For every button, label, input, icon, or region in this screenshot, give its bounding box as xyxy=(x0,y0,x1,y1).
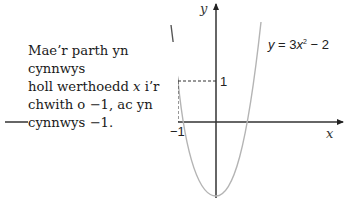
graph-figure: Mae’r parth yn cynnwys holl werthoedd x … xyxy=(0,0,346,201)
caption-line-2: holl werthoedd x i’r xyxy=(28,78,178,96)
y-tick-one: 1 xyxy=(220,74,227,89)
caption-line-3: chwith o −1, ac yn xyxy=(28,96,178,114)
domain-explanation-text: Mae’r parth yn cynnwys holl werthoedd x … xyxy=(28,42,178,132)
parabola-curve xyxy=(178,22,261,196)
caption-line-1: Mae’r parth yn cynnwys xyxy=(28,42,178,78)
x-axis-label: x xyxy=(326,126,333,141)
caption-variable-x: x xyxy=(133,79,140,94)
equation-eq: = 3 xyxy=(275,37,297,52)
x-tick-minus-one: −1 xyxy=(170,124,185,139)
caption-line-2-post: i’r xyxy=(141,79,160,94)
caption-line-2-pre: holl werthoedd xyxy=(28,79,133,94)
function-equation: y = 3x2 − 2 xyxy=(268,37,329,52)
caption-line-4: cynnwys −1. xyxy=(28,114,178,132)
y-axis-label: y xyxy=(200,1,207,16)
equation-rest: − 2 xyxy=(307,37,329,52)
